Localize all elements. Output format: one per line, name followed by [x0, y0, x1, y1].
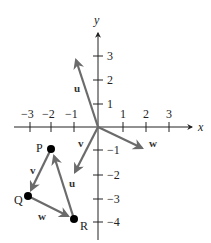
- point-Q: [24, 192, 32, 200]
- y-tick-label: 2: [107, 73, 113, 87]
- vector-w: [98, 127, 142, 148]
- y-tick-label: −2: [107, 168, 120, 182]
- edge-RP-label: u: [69, 177, 75, 189]
- y-tick-label: 3: [107, 49, 113, 63]
- y-tick-label: −4: [107, 215, 120, 229]
- edge-QR: [28, 196, 68, 216]
- vector-diagram: x y −3 −2 −1 1 2 3 1 2 3 −1 −2 −3 −4 u v…: [0, 0, 211, 243]
- point-R-label: R: [80, 219, 88, 233]
- x-tick-label: −1: [65, 107, 78, 121]
- edge-PQ-label: v: [30, 164, 36, 176]
- y-tick-label: 1: [107, 97, 113, 111]
- point-P-label: P: [36, 141, 43, 155]
- x-tick-label: 2: [143, 107, 149, 121]
- y-tick-label: −1: [107, 143, 120, 157]
- vector-v-label: v: [78, 137, 84, 149]
- point-P: [47, 145, 55, 153]
- x-tick-label: −3: [21, 107, 34, 121]
- vector-u-label: u: [74, 82, 80, 94]
- point-Q-label: Q: [14, 193, 23, 207]
- y-tick-label: −3: [107, 192, 120, 206]
- y-axis-label: y: [93, 13, 100, 27]
- x-tick-label: 3: [166, 107, 172, 121]
- x-tick-label: 1: [120, 107, 126, 121]
- point-R: [70, 215, 78, 223]
- x-tick-label: −2: [42, 107, 55, 121]
- edge-QR-label: w: [38, 210, 46, 222]
- x-axis-label: x: [197, 120, 204, 134]
- vector-w-label: w: [149, 137, 157, 149]
